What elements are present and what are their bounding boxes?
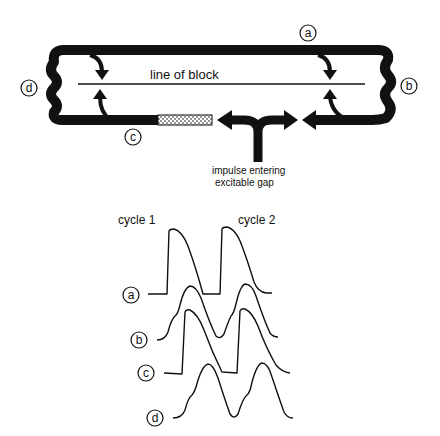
impulse-arrowhead-right xyxy=(284,110,298,130)
svg-text:c: c xyxy=(130,130,136,144)
arrowhead-down-right xyxy=(323,70,337,80)
site-label-d: d xyxy=(21,80,37,96)
line-of-block-label: line of block xyxy=(150,67,219,82)
site-label-a: a xyxy=(300,25,316,41)
waveform-traces xyxy=(148,227,293,418)
trace-c xyxy=(164,309,290,374)
reentry-diagram: line of block impulse entering excitable… xyxy=(0,0,440,436)
svg-text:a: a xyxy=(128,288,135,302)
impulse-entering-arrow xyxy=(217,110,316,162)
trace-d xyxy=(173,363,293,418)
trace-label-d: d xyxy=(147,410,163,426)
arrowhead-up-left xyxy=(93,89,107,99)
svg-text:c: c xyxy=(143,366,149,380)
impulse-arrowhead-left xyxy=(217,110,232,130)
svg-text:b: b xyxy=(406,79,413,93)
arrow-top-right-icon xyxy=(318,55,330,72)
trace-label-b: b xyxy=(131,332,147,348)
cycle-2-label: cycle 2 xyxy=(238,213,276,227)
impulse-label-line2: excitable gap xyxy=(215,177,274,188)
svg-text:b: b xyxy=(136,333,143,347)
return-arrowhead-left xyxy=(302,110,316,130)
impulse-stem xyxy=(228,120,288,162)
block-arrows xyxy=(90,55,348,120)
impulse-label-line1: impulse entering xyxy=(212,165,285,176)
trace-a xyxy=(148,227,272,294)
trace-label-c: c xyxy=(138,365,154,381)
svg-text:a: a xyxy=(305,26,312,40)
arrow-top-left-icon xyxy=(90,55,102,72)
arrowhead-down-left xyxy=(95,70,109,80)
cycle-1-label: cycle 1 xyxy=(118,213,156,227)
site-label-c: c xyxy=(125,129,141,145)
slow-conduction-zone xyxy=(158,115,212,125)
arrowhead-up-right xyxy=(323,89,337,99)
svg-text:d: d xyxy=(152,411,159,425)
trace-label-a: a xyxy=(123,287,139,303)
site-label-b: b xyxy=(401,78,417,94)
svg-text:d: d xyxy=(26,81,33,95)
